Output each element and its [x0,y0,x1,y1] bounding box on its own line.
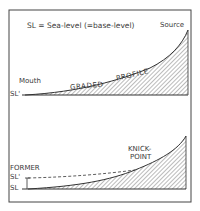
former-label: FORMER [10,165,40,172]
sl-label: SL [10,185,18,192]
rejuvenated-profile-fill [28,136,186,189]
knick-label: KNICK- [128,146,151,153]
legend-text: SL = Sea-level (=base-level) [27,22,134,30]
sl-prime-label-top: SL' [10,91,20,98]
former-sl-label: SL' [10,174,20,181]
river-profile-diagram [0,0,200,211]
graded-profile-fill [25,30,188,95]
point-label: POINT [130,154,151,161]
mouth-label: Mouth [19,78,41,85]
source-label: Source [160,22,184,29]
